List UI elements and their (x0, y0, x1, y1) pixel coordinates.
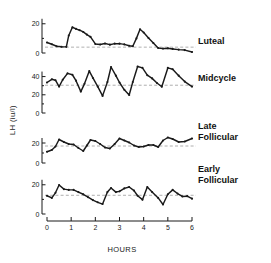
data-point-marker (110, 187, 112, 189)
data-point-marker (58, 138, 60, 140)
data-point-marker (191, 198, 193, 200)
data-series-line (47, 27, 192, 52)
x-axis-tick-label: 5 (166, 224, 170, 231)
data-point-marker (73, 143, 75, 145)
data-point-marker (133, 190, 135, 192)
data-point-marker (75, 28, 77, 30)
data-point-marker (104, 146, 106, 148)
data-point-marker (143, 145, 145, 147)
x-axis: 0123456 (45, 217, 194, 231)
data-point-marker (146, 74, 148, 76)
data-point-marker (118, 190, 120, 192)
panel-label-early-follicular-line1: Early (198, 164, 220, 174)
data-point-marker (51, 43, 53, 45)
data-point-marker (46, 41, 48, 43)
y-axis-tick-label: 0 (36, 50, 40, 57)
x-axis-tick-label: 3 (118, 224, 122, 231)
data-point-marker (146, 186, 148, 188)
panel-group: 02002040020020 (32, 19, 196, 218)
data-point-marker (184, 140, 186, 142)
data-point-marker (97, 201, 99, 203)
lh-pulse-figure: LH (iu/l) 02002040020020 0123456 HOURS L… (0, 0, 271, 263)
y-axis-tick-label: 20 (32, 20, 40, 27)
data-point-marker (157, 47, 159, 49)
data-point-marker (186, 195, 188, 197)
y-axis-tick-label: 20 (32, 181, 40, 188)
data-point-marker (143, 31, 145, 33)
data-point-marker (123, 187, 125, 189)
data-point-marker (71, 74, 73, 76)
data-point-marker (63, 188, 65, 190)
data-point-marker (114, 43, 116, 45)
data-point-marker (141, 199, 143, 201)
y-axis-tick-label: 20 (32, 91, 40, 98)
data-point-marker (128, 141, 130, 143)
x-axis-title: HOURS (107, 245, 136, 254)
y-axis-tick-label: 40 (32, 73, 40, 80)
data-point-marker (46, 81, 48, 83)
data-point-marker (60, 46, 62, 48)
panel-label-early-follicular-line2: Follicular (198, 175, 239, 185)
y-axis-title: LH (iu/l) (8, 105, 17, 135)
data-point-marker (51, 197, 53, 199)
data-point-marker (167, 67, 169, 69)
data-point-marker (172, 48, 174, 50)
data-point-marker (62, 79, 64, 81)
data-point-marker (167, 136, 169, 138)
data-point-marker (102, 203, 104, 205)
data-point-marker (147, 37, 149, 39)
data-point-marker (128, 45, 130, 47)
data-point-marker (58, 86, 60, 88)
data-point-marker (89, 139, 91, 141)
data-point-marker (115, 191, 117, 193)
data-point-marker (86, 144, 88, 146)
data-point-marker (102, 95, 104, 97)
data-point-marker (82, 193, 84, 195)
data-point-marker (92, 77, 94, 79)
data-point-marker (80, 91, 82, 93)
data-point-marker (65, 46, 67, 48)
data-point-marker (191, 86, 193, 88)
data-point-marker (181, 195, 183, 197)
data-point-marker (157, 197, 159, 199)
data-point-marker (191, 137, 193, 139)
data-point-marker (157, 146, 159, 148)
data-point-marker (115, 75, 117, 77)
data-point-marker (152, 144, 154, 146)
data-series-line (47, 67, 192, 96)
data-point-marker (99, 43, 101, 45)
x-axis-tick-label: 0 (45, 224, 49, 231)
data-point-marker (82, 150, 84, 152)
data-point-marker (118, 43, 120, 45)
data-point-marker (151, 191, 153, 193)
data-point-marker (184, 49, 186, 51)
y-axis-tick-label: 0 (36, 211, 40, 218)
data-point-marker (106, 81, 108, 83)
data-point-marker (178, 75, 180, 77)
data-point-marker (89, 36, 91, 38)
data-point-marker (172, 189, 174, 191)
data-point-marker (79, 29, 81, 31)
data-point-marker (86, 34, 88, 36)
x-axis-tick-label: 6 (190, 224, 194, 231)
data-point-marker (151, 77, 153, 79)
panel-label-late-follicular-line2: Follicular (198, 132, 239, 142)
data-point-marker (109, 44, 111, 46)
data-point-marker (68, 189, 70, 191)
data-point-marker (184, 81, 186, 83)
data-point-marker (73, 189, 75, 191)
data-point-marker (88, 70, 90, 72)
data-point-marker (137, 195, 139, 197)
data-point-marker (167, 47, 169, 49)
data-point-marker (106, 191, 108, 193)
data-point-marker (68, 143, 70, 145)
x-axis-tick-label: 4 (142, 224, 146, 231)
data-point-marker (132, 81, 134, 83)
data-point-marker (162, 203, 164, 205)
y-axis-tick-label: 20 (32, 140, 40, 147)
data-point-marker (82, 31, 84, 33)
chart-panel: 020 (32, 19, 196, 57)
data-point-marker (71, 26, 73, 28)
data-point-marker (128, 94, 130, 96)
data-point-marker (54, 79, 56, 81)
